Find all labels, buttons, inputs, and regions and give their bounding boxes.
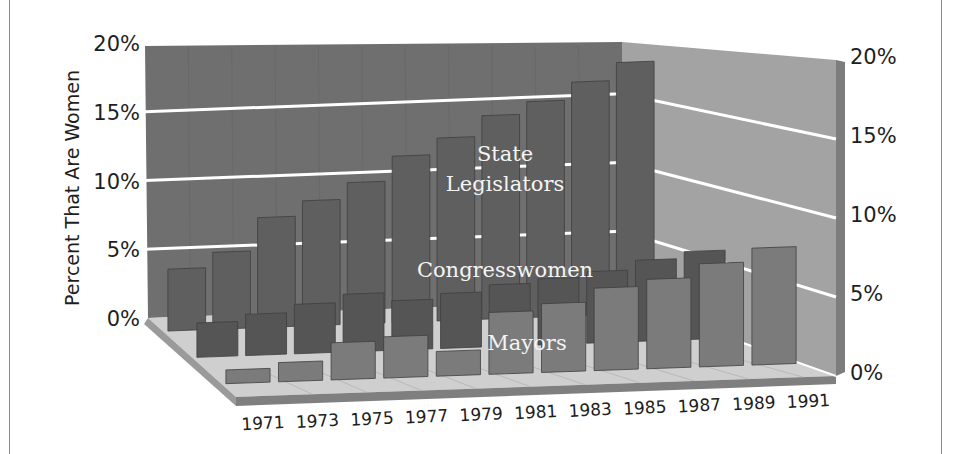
bar-state-legislators-1973 xyxy=(213,251,251,329)
x-tick-1983: 1983 xyxy=(568,399,612,421)
bar-mayors-1977 xyxy=(384,335,428,378)
x-tick-1973: 1973 xyxy=(295,410,339,432)
x-tick-1981: 1981 xyxy=(514,401,558,423)
bar-mayors-1975 xyxy=(331,341,375,380)
left-y-axis: 0%5%10%15%20% xyxy=(93,32,140,331)
bar-congresswomen-1975 xyxy=(294,303,335,354)
bar-mayors-1985 xyxy=(594,287,638,371)
bar-state-legislators-1971 xyxy=(168,268,206,331)
chart-3d-bars: 0%5%10%15%20% 0%5%10%15%20% 197119731975… xyxy=(0,0,957,454)
bar-congresswomen-1981 xyxy=(441,292,482,348)
left-tick-3: 15% xyxy=(93,101,140,125)
right-y-axis: 0%5%10%15%20% xyxy=(850,45,897,385)
bar-mayors-1989 xyxy=(699,262,743,367)
series-label-congresswomen: Congresswomen xyxy=(417,258,593,282)
x-tick-1987: 1987 xyxy=(677,394,721,416)
bar-state-legislators-1975 xyxy=(258,216,296,327)
bar-mayors-1987 xyxy=(647,278,691,369)
side-wall-edge xyxy=(836,60,845,376)
right-tick-2: 10% xyxy=(850,203,897,227)
right-tick-4: 20% xyxy=(850,45,897,69)
right-tick-3: 15% xyxy=(850,124,897,148)
bar-congresswomen-1971 xyxy=(197,321,238,357)
bar-mayors-1991 xyxy=(752,247,796,365)
x-tick-1971: 1971 xyxy=(241,412,285,434)
left-tick-4: 20% xyxy=(93,32,140,56)
x-tick-1985: 1985 xyxy=(623,396,667,418)
right-tick-1: 5% xyxy=(850,282,883,306)
x-tick-1989: 1989 xyxy=(732,392,776,414)
bar-mayors-1971 xyxy=(226,368,270,383)
bar-congresswomen-1973 xyxy=(246,313,287,356)
bar-state-legislators-1981 xyxy=(392,155,430,323)
left-tick-1: 5% xyxy=(107,238,140,262)
series-label-mayors: Mayors xyxy=(487,331,566,355)
y-axis-title: Percent That Are Women xyxy=(61,70,83,306)
x-tick-1977: 1977 xyxy=(404,405,448,427)
left-tick-2: 10% xyxy=(93,170,140,194)
right-tick-0: 0% xyxy=(850,361,883,385)
bar-mayors-1979 xyxy=(436,350,480,376)
series-label-state-line1: State xyxy=(477,142,533,166)
bar-mayors-1973 xyxy=(278,361,322,382)
x-tick-1979: 1979 xyxy=(459,403,503,425)
x-tick-1975: 1975 xyxy=(350,408,394,430)
series-label-state-line2: Legislators xyxy=(446,172,564,196)
left-tick-0: 0% xyxy=(107,307,140,331)
x-tick-1991: 1991 xyxy=(786,390,830,412)
